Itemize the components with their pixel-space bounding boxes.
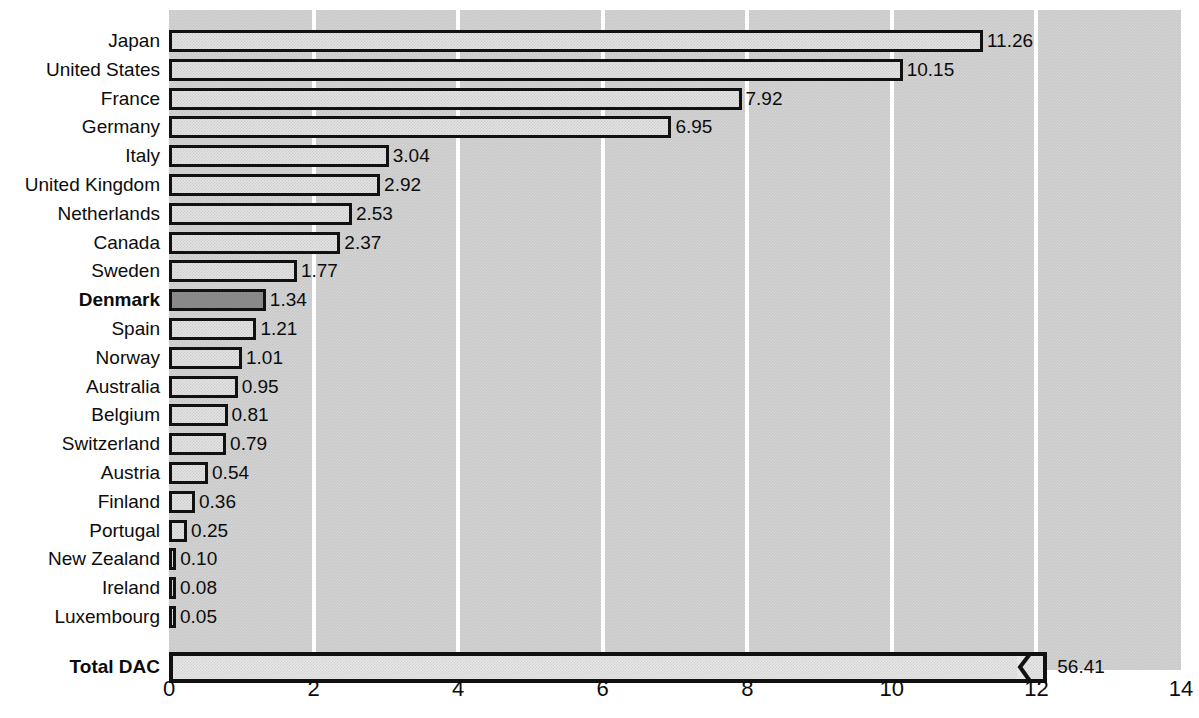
bar-row: United States10.15 (0, 57, 1199, 83)
bar-row: Germany6.95 (0, 114, 1199, 140)
bar-row: Japan11.26 (0, 28, 1199, 54)
bar-chart: Japan11.26United States10.15France7.92Ge… (0, 0, 1199, 718)
x-tick-label: 8 (741, 676, 753, 702)
bar-row: United Kingdom2.92 (0, 172, 1199, 198)
bar-row: Austria0.54 (0, 460, 1199, 486)
bar (169, 116, 671, 138)
bar-value-label: 0.79 (226, 431, 267, 457)
bar-value-label: 0.10 (176, 546, 217, 572)
category-label: Belgium (0, 402, 160, 428)
bar (169, 318, 256, 340)
bar (169, 174, 380, 196)
category-label: Switzerland (0, 431, 160, 457)
bar (169, 145, 389, 167)
x-tick-label: 14 (1169, 676, 1193, 702)
bar (169, 59, 903, 81)
category-label: Italy (0, 143, 160, 169)
bar-value-label: 6.95 (671, 114, 712, 140)
category-label: New Zealand (0, 546, 160, 572)
category-label: Spain (0, 316, 160, 342)
bar-value-label: 0.05 (176, 604, 217, 630)
category-label: United States (0, 57, 160, 83)
category-label: Netherlands (0, 201, 160, 227)
bar-row: New Zealand0.10 (0, 546, 1199, 572)
bar-value-label: 0.81 (228, 402, 269, 428)
bar-row: France7.92 (0, 86, 1199, 112)
bar-value-label: 1.34 (266, 287, 307, 313)
bar-value-label: 1.21 (256, 316, 297, 342)
total-label: Total DAC (0, 647, 160, 687)
x-tick-label: 2 (307, 676, 319, 702)
bar-row: Netherlands2.53 (0, 201, 1199, 227)
bar-value-label: 2.92 (380, 172, 421, 198)
bar-value-label: 0.36 (195, 489, 236, 515)
x-tick-label: 12 (1024, 676, 1048, 702)
bar-row: Belgium0.81 (0, 402, 1199, 428)
x-tick-label: 6 (597, 676, 609, 702)
category-label: Germany (0, 114, 160, 140)
bar-value-label: 1.01 (242, 345, 283, 371)
category-label: France (0, 86, 160, 112)
bar (169, 203, 352, 225)
bar (169, 88, 742, 110)
category-label: Denmark (0, 287, 160, 313)
x-tick-label: 10 (880, 676, 904, 702)
category-label: Australia (0, 374, 160, 400)
bar (169, 404, 228, 426)
bar-value-label: 0.54 (208, 460, 249, 486)
bar (169, 462, 208, 484)
category-label: Ireland (0, 575, 160, 601)
bar-row: Denmark1.34 (0, 287, 1199, 313)
bar-row: Finland0.36 (0, 489, 1199, 515)
bar-row: Italy3.04 (0, 143, 1199, 169)
bar-row: Luxembourg0.05 (0, 604, 1199, 630)
bar-value-label: 1.77 (297, 258, 338, 284)
bar-value-label: 10.15 (903, 57, 955, 83)
category-label: Portugal (0, 518, 160, 544)
bar-value-label: 11.26 (983, 28, 1033, 54)
bar-row: Portugal0.25 (0, 518, 1199, 544)
bar (169, 577, 176, 599)
bar-value-label: 0.08 (176, 575, 217, 601)
bar-value-label: 3.04 (389, 143, 430, 169)
bar-row: Australia0.95 (0, 374, 1199, 400)
bar-value-label: 2.37 (340, 230, 381, 256)
bar-row: Switzerland0.79 (0, 431, 1199, 457)
bar-value-label: 0.25 (187, 518, 228, 544)
bar-value-label: 2.53 (352, 201, 393, 227)
total-value-label: 56.41 (1053, 647, 1105, 687)
bar (169, 289, 266, 311)
bar-row: Canada2.37 (0, 230, 1199, 256)
category-label: Austria (0, 460, 160, 486)
bar (169, 232, 340, 254)
bar (169, 260, 297, 282)
bar (169, 347, 242, 369)
category-label: Finland (0, 489, 160, 515)
category-label: Sweden (0, 258, 160, 284)
bar-value-label: 7.92 (742, 86, 783, 112)
category-label: Japan (0, 28, 160, 54)
bar (169, 376, 238, 398)
bar (169, 30, 983, 52)
category-label: United Kingdom (0, 172, 160, 198)
bar (169, 491, 195, 513)
bar (169, 606, 176, 628)
category-label: Luxembourg (0, 604, 160, 630)
category-label: Canada (0, 230, 160, 256)
bar (169, 520, 187, 542)
bar (169, 433, 226, 455)
bar-row: Ireland0.08 (0, 575, 1199, 601)
bar-row: Norway1.01 (0, 345, 1199, 371)
x-tick-label: 4 (452, 676, 464, 702)
bar-value-label: 0.95 (238, 374, 279, 400)
bar-row: Spain1.21 (0, 316, 1199, 342)
category-label: Norway (0, 345, 160, 371)
bar-row: Sweden1.77 (0, 258, 1199, 284)
x-tick-label: 0 (163, 676, 175, 702)
bar (169, 548, 176, 570)
